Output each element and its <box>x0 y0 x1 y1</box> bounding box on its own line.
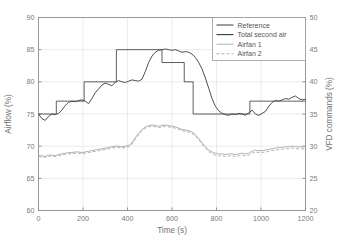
xtick-label: 400 <box>122 214 134 223</box>
x-axis-label: Time (s) <box>157 226 187 235</box>
ytick-label: 60 <box>27 206 35 215</box>
y2tick-label: 30 <box>310 142 318 151</box>
y2tick-label: 40 <box>310 77 318 86</box>
legend-label-1: Reference <box>238 22 270 29</box>
chart-canvas: 0200400600800100012006065707580859020253… <box>0 0 341 247</box>
xtick-label: 600 <box>166 214 178 223</box>
y2tick-label: 45 <box>310 45 318 54</box>
y-axis-label: Airflow (%) <box>4 94 13 134</box>
xtick-label: 200 <box>77 214 89 223</box>
ytick-label: 65 <box>27 174 35 183</box>
y2tick-label: 50 <box>310 13 318 22</box>
legend-label-3: Airfan 1 <box>238 41 262 48</box>
ytick-label: 80 <box>27 77 35 86</box>
chart-figure: 0200400600800100012006065707580859020253… <box>0 0 341 247</box>
y2tick-label: 25 <box>310 174 318 183</box>
ytick-label: 90 <box>27 13 35 22</box>
legend-label-2: Total second air <box>238 31 288 38</box>
ytick-label: 75 <box>27 110 35 119</box>
y2-axis-label: VFD commands (%) <box>325 77 334 151</box>
ytick-label: 70 <box>27 142 35 151</box>
xtick-label: 0 <box>37 214 41 223</box>
xtick-label: 1000 <box>253 214 269 223</box>
y2tick-label: 20 <box>310 206 318 215</box>
xtick-label: 800 <box>211 214 223 223</box>
ytick-label: 85 <box>27 45 35 54</box>
legend-label-4: Airfan 2 <box>238 50 262 57</box>
y2tick-label: 35 <box>310 110 318 119</box>
